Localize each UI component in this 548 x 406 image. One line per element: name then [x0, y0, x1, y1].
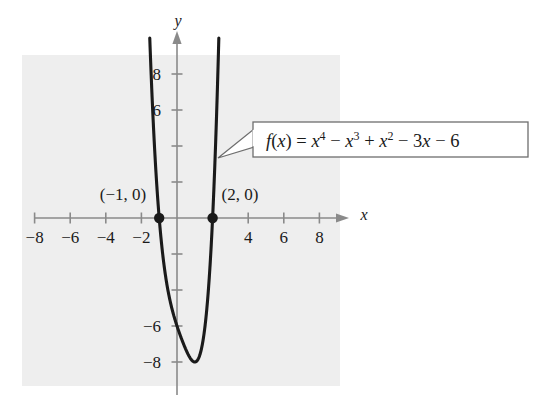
x-tick-label--2: −2	[132, 228, 150, 247]
x-tick-label--4: −4	[97, 228, 116, 247]
y-tick-label--8: −8	[143, 353, 161, 372]
callout-equation: f(x) = x4 − x3 + x2 − 3x − 6	[266, 129, 460, 152]
left-root-label: (−1, 0)	[100, 185, 146, 204]
y-tick-label--6: −6	[143, 317, 161, 336]
graph-figure: xy−8−6−4−246886−6−8(−1, 0)(2, 0)f(x) = x…	[0, 0, 548, 406]
x-tick-label-4: 4	[244, 228, 253, 247]
x-axis-arrowhead	[336, 213, 349, 222]
graph-svg: xy−8−6−4−246886−6−8(−1, 0)(2, 0)f(x) = x…	[0, 0, 548, 406]
y-tick-label-8: 8	[153, 65, 162, 84]
x-tick-label-8: 8	[315, 228, 324, 247]
x-tick-label--6: −6	[61, 228, 79, 247]
y-axis-label: y	[172, 12, 182, 30]
x-tick-label--8: −8	[26, 228, 44, 247]
right-root-label: (2, 0)	[222, 185, 259, 204]
x-tick-label-6: 6	[280, 228, 289, 247]
root-point-right	[207, 213, 217, 223]
root-point-left	[154, 213, 164, 223]
x-axis-label: x	[359, 206, 367, 223]
y-axis-arrowhead	[172, 31, 181, 44]
